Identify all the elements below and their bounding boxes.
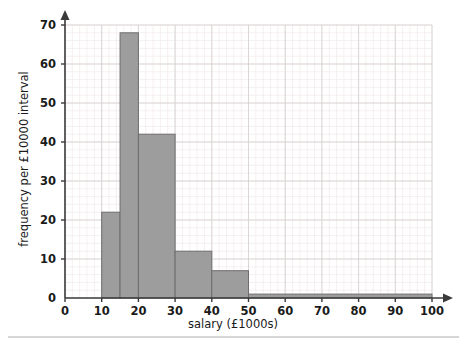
histogram-bar: [120, 33, 138, 298]
x-tick-label: 90: [387, 304, 403, 318]
chart-canvas: 0102030405060708090100 010203040506070 s…: [0, 0, 467, 342]
histogram-bar: [175, 251, 212, 298]
x-tick-label: 20: [130, 304, 146, 318]
y-axis-title: frequency per £10000 interval: [17, 71, 31, 247]
x-tick-label: 30: [167, 304, 183, 318]
y-tick-label: 0: [48, 291, 56, 305]
y-tick-label: 70: [40, 18, 56, 32]
histogram-bar: [212, 271, 249, 298]
x-tick-label: 10: [94, 304, 110, 318]
y-tick-label: 10: [40, 252, 56, 266]
histogram-figure: 0102030405060708090100 010203040506070 s…: [0, 0, 467, 342]
x-tick-label: 100: [420, 304, 444, 318]
histogram-bar: [102, 212, 120, 298]
x-tick-label: 70: [314, 304, 330, 318]
x-tick-label: 80: [351, 304, 367, 318]
y-tick-label: 60: [40, 57, 56, 71]
y-tick-label: 50: [40, 96, 56, 110]
x-tick-label: 40: [204, 304, 220, 318]
x-tick-label: 0: [61, 304, 69, 318]
x-axis-title: salary (£1000s): [188, 317, 278, 331]
y-tick-label: 20: [40, 213, 56, 227]
x-tick-label: 50: [240, 304, 256, 318]
y-tick-label: 30: [40, 174, 56, 188]
x-tick-label: 60: [277, 304, 293, 318]
y-tick-label: 40: [40, 135, 56, 149]
histogram-bar: [138, 134, 175, 298]
